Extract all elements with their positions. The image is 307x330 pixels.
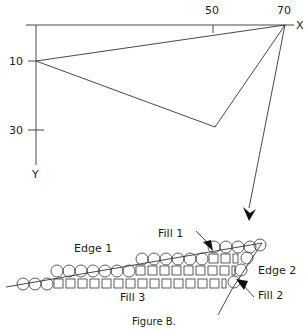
fill3-label: Fill 3 [120,291,145,304]
fill-pixels-row3 [209,254,238,263]
y-tick-label-10: 10 [9,55,23,68]
triangle [36,25,285,127]
figure-b-diagram: X Y 50 70 10 30 [0,0,307,330]
edge3-line [218,289,232,315]
fill1-pointer-line [196,231,207,242]
x-axis-label: X [296,19,304,32]
y-tick-label-30: 30 [9,124,23,137]
arrowhead-icon [243,207,256,221]
fill2-label: Fill 2 [258,289,283,302]
fill1-label: Fill 1 [158,227,183,240]
figure-caption: Figure B. [132,316,176,327]
fill-pixels-row2 [136,266,235,275]
fill-pixels-row1 [54,279,226,288]
y-axis-label: Y [31,168,39,181]
zoom-arrow-line [249,25,285,208]
edge1-line [6,243,262,287]
edge2-label: Edge 2 [258,264,296,277]
edge1-label: Edge 1 [74,242,112,255]
x-tick-label-70: 70 [277,4,291,17]
x-tick-label-50: 50 [205,4,219,17]
